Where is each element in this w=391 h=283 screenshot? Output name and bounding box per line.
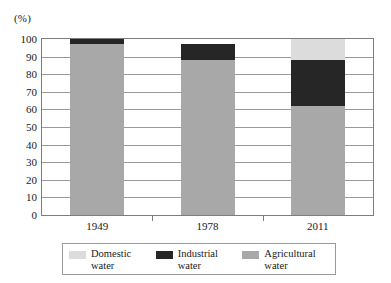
y-tick-label-70: 70 [9,86,37,97]
x-tick-label-1949: 1949 [67,220,127,233]
x-axis-tick-1 [152,216,153,221]
bar-1978[interactable] [181,44,235,215]
y-tick-label-90: 90 [9,51,37,62]
bar-1949[interactable] [70,39,124,215]
legend-swatch-1 [156,251,173,259]
y-tick-label-40: 40 [9,139,37,150]
legend-label-2: Agricultural water [264,248,315,272]
bar-segment-1978-industrial[interactable] [181,44,235,60]
legend-label-1: Industrial water [178,248,218,272]
legend-item-2[interactable]: Agricultural water [242,248,329,272]
y-tick-label-0: 0 [9,210,37,221]
bar-segment-2011-domestic[interactable] [291,39,345,60]
legend-label-0: Domestic water [91,248,131,272]
legend-swatch-0 [69,251,86,259]
y-axis-tick-labels: 1009080706050403020100 [5,38,37,216]
y-tick-label-60: 60 [9,104,37,115]
y-tick-label-80: 80 [9,69,37,80]
x-tick-label-2011: 2011 [288,220,348,233]
y-tick-label-10: 10 [9,192,37,203]
y-tick-label-100: 100 [9,34,37,45]
chart-legend: Domestic waterIndustrial waterAgricultur… [62,243,336,275]
bar-segment-1978-agricultural[interactable] [181,60,235,215]
y-axis-unit-label: (%) [14,12,31,24]
legend-item-1[interactable]: Industrial water [156,248,243,272]
bars-layer [42,39,373,215]
bar-segment-2011-agricultural[interactable] [291,106,345,215]
legend-swatch-2 [242,251,259,259]
x-axis-tick-2 [263,216,264,221]
x-tick-label-1978: 1978 [178,220,238,233]
stacked-bar-chart: (%) 1009080706050403020100 Domestic wate… [0,0,391,283]
y-tick-label-50: 50 [9,122,37,133]
bar-segment-2011-industrial[interactable] [291,60,345,106]
y-tick-label-20: 20 [9,174,37,185]
y-tick-label-30: 30 [9,157,37,168]
bar-2011[interactable] [291,39,345,215]
legend-item-0[interactable]: Domestic water [69,248,156,272]
bar-segment-1949-agricultural[interactable] [70,44,124,215]
